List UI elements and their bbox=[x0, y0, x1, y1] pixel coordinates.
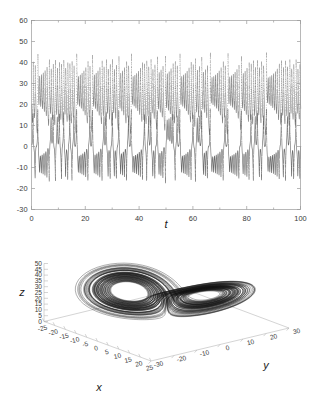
attractor-y-ticklabel: -10 bbox=[199, 349, 210, 358]
timeseries-y-ticklabel: 0 bbox=[23, 142, 27, 151]
timeseries-x-ticklabel: 0 bbox=[29, 214, 33, 223]
timeseries-xlabel: t bbox=[164, 218, 168, 228]
attractor-y-ticklabel: -30 bbox=[153, 360, 164, 369]
lorenz-system-figure: -30-20-100102030405060 020406080100 t 0 bbox=[0, 0, 318, 399]
attractor-x-ticklabel: 10 bbox=[113, 351, 122, 360]
timeseries-y-ticklabel: -30 bbox=[17, 205, 28, 214]
attractor-x-ticklabel: -15 bbox=[58, 331, 69, 340]
attractor-z-ticks: 05101520253035404550 bbox=[35, 260, 48, 325]
attractor-x-ticklabel: 15 bbox=[124, 355, 133, 364]
attractor-trajectory bbox=[75, 263, 255, 320]
attractor-trajectory-path bbox=[75, 263, 255, 320]
attractor-y-ticklabel: 10 bbox=[246, 338, 255, 347]
attractor-y-ticklabel: 20 bbox=[269, 332, 278, 341]
attractor-x-ticklabel: -20 bbox=[48, 327, 59, 336]
attractor-y-ticks: -30-20-100102030 bbox=[149, 327, 302, 369]
timeseries-x-ticklabel: 40 bbox=[135, 214, 143, 223]
timeseries-x-ticklabel: 20 bbox=[81, 214, 89, 223]
timeseries-chart: -30-20-100102030405060 020406080100 t bbox=[0, 0, 318, 228]
timeseries-y-ticklabel: 20 bbox=[19, 100, 27, 109]
attractor-zlabel: z bbox=[18, 286, 25, 298]
attractor-z-ticklabel: 50 bbox=[35, 260, 43, 267]
attractor-y-ticklabel: -20 bbox=[176, 354, 187, 363]
attractor-svg: 05101520253035404550 -25-20-15-10-505101… bbox=[0, 228, 318, 399]
attractor-x-ticks: -25-20-15-10-50510152025 bbox=[37, 318, 154, 372]
timeseries-series-z bbox=[31, 53, 301, 136]
timeseries-traces bbox=[31, 53, 301, 184]
attractor-x-ticklabel: -25 bbox=[37, 324, 48, 333]
timeseries-x-ticklabel: 100 bbox=[294, 214, 306, 223]
attractor-y-ticklabel: 0 bbox=[225, 344, 230, 352]
timeseries-y-ticklabel: -10 bbox=[17, 163, 28, 172]
timeseries-y-ticklabel: -20 bbox=[17, 184, 28, 193]
attractor-x-ticklabel: 0 bbox=[93, 344, 98, 352]
timeseries-svg: -30-20-100102030405060 020406080100 t bbox=[0, 0, 318, 228]
timeseries-frame bbox=[32, 21, 301, 210]
attractor-chart: 05101520253035404550 -25-20-15-10-505101… bbox=[0, 228, 318, 399]
attractor-x-ticklabel: -5 bbox=[82, 340, 90, 348]
attractor-ylabel: y bbox=[262, 359, 270, 371]
timeseries-y-ticklabel: 30 bbox=[19, 79, 27, 88]
timeseries-y-ticklabel: 50 bbox=[19, 37, 27, 46]
timeseries-y-ticklabel: 10 bbox=[19, 121, 27, 130]
attractor-x-ticklabel: 20 bbox=[134, 359, 143, 368]
timeseries-x-ticklabel: 80 bbox=[243, 214, 251, 223]
attractor-xlabel: x bbox=[95, 381, 102, 393]
attractor-y-ticklabel: 30 bbox=[292, 327, 301, 336]
timeseries-y-ticklabel: 60 bbox=[19, 16, 27, 25]
attractor-x-ticklabel: 5 bbox=[104, 348, 109, 356]
timeseries-x-ticklabel: 60 bbox=[189, 214, 197, 223]
attractor-x-ticklabel: -10 bbox=[69, 335, 80, 344]
timeseries-y-ticklabel: 40 bbox=[19, 58, 27, 67]
